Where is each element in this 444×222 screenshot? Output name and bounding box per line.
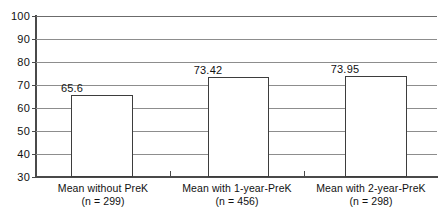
x-axis-label-group-1: Mean without PreK (n = 299) — [36, 182, 170, 208]
x-axis-label-3-line2: (n = 298) — [304, 195, 438, 208]
bar-mean-with-2-year-prek — [345, 76, 407, 177]
x-axis-label-1-line2: (n = 299) — [36, 195, 170, 208]
gridline-100 — [36, 16, 437, 17]
bar-value-label-2: 73.42 — [177, 65, 239, 76]
x-axis-label-2-line1: Mean with 1-year-PreK — [182, 182, 291, 194]
x-axis-label-3-line1: Mean with 2-year-PreK — [316, 182, 425, 194]
x-axis-label-2-line2: (n = 456) — [170, 195, 304, 208]
y-tick-label-90: 90 — [4, 34, 30, 45]
y-tick-mark-40 — [32, 154, 36, 155]
x-axis-label-group-2: Mean with 1-year-PreK (n = 456) — [170, 182, 304, 208]
bar-mean-without-prek — [71, 95, 133, 177]
x-axis-divider-1 — [170, 171, 171, 177]
y-tick-label-80: 80 — [4, 57, 30, 68]
y-tick-mark-30 — [32, 177, 36, 178]
gridline-80 — [36, 62, 437, 63]
y-tick-label-50: 50 — [4, 126, 30, 137]
y-tick-mark-80 — [32, 62, 36, 63]
x-axis-label-1-line1: Mean without PreK — [58, 182, 148, 194]
bar-mean-with-1-year-prek — [208, 77, 269, 177]
y-tick-label-40: 40 — [4, 149, 30, 160]
y-tick-label-70: 70 — [4, 80, 30, 91]
y-tick-mark-60 — [32, 108, 36, 109]
y-tick-mark-90 — [32, 39, 36, 40]
x-axis-divider-2 — [304, 171, 305, 177]
bar-chart: 100 90 80 70 60 50 40 30 65.6 73.42 73.9… — [0, 0, 444, 222]
bar-value-label-3: 73.95 — [314, 64, 376, 75]
y-tick-label-60: 60 — [4, 103, 30, 114]
gridline-90 — [36, 39, 437, 40]
y-tick-label-100: 100 — [4, 11, 30, 22]
y-tick-mark-70 — [32, 85, 36, 86]
y-tick-mark-100 — [32, 16, 36, 17]
bar-value-label-1: 65.6 — [41, 83, 103, 94]
y-tick-label-30: 30 — [4, 172, 30, 183]
y-tick-mark-50 — [32, 131, 36, 132]
x-axis-label-group-3: Mean with 2-year-PreK (n = 298) — [304, 182, 438, 208]
plot-area — [36, 16, 437, 177]
